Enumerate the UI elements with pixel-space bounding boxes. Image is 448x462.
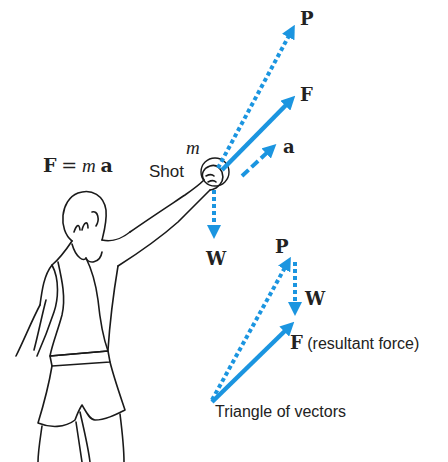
athlete-figure bbox=[16, 165, 223, 462]
vector-F-solid bbox=[222, 100, 291, 170]
label-P: P bbox=[300, 10, 314, 28]
athlete-waistband bbox=[50, 351, 110, 366]
triangle-F-solid bbox=[212, 326, 290, 402]
equation: F = m a bbox=[43, 156, 113, 175]
athlete-lower-arm bbox=[16, 300, 46, 356]
triangle-F-note: (resultant force) bbox=[307, 335, 419, 352]
triangle-label-F: F (resultant force) bbox=[290, 334, 419, 352]
triangle-label-W: W bbox=[305, 290, 325, 308]
diagram-canvas bbox=[0, 0, 448, 462]
triangle-of-vectors bbox=[212, 262, 295, 402]
equation-equals: = bbox=[61, 154, 77, 176]
shot-mass-label: m bbox=[186, 138, 200, 157]
triangle-caption: Triangle of vectors bbox=[215, 404, 346, 420]
label-a: a bbox=[283, 138, 295, 156]
athlete-legs bbox=[38, 412, 124, 462]
athlete-hair bbox=[74, 212, 98, 232]
equation-F: F bbox=[43, 154, 57, 176]
force-vectors bbox=[214, 30, 292, 233]
equation-acceleration: a bbox=[100, 154, 112, 176]
equation-mass: m bbox=[82, 155, 96, 176]
triangle-F-symbol: F bbox=[290, 332, 303, 353]
vector-P-dotted bbox=[218, 30, 292, 168]
shot-label: Shot bbox=[149, 163, 184, 180]
vector-a-dashed bbox=[242, 148, 272, 176]
triangle-P-dotted bbox=[212, 262, 288, 400]
athlete-head bbox=[63, 192, 106, 241]
athlete-vest bbox=[50, 258, 108, 356]
label-F: F bbox=[300, 86, 313, 104]
triangle-label-P: P bbox=[275, 238, 289, 256]
label-W: W bbox=[206, 250, 226, 268]
